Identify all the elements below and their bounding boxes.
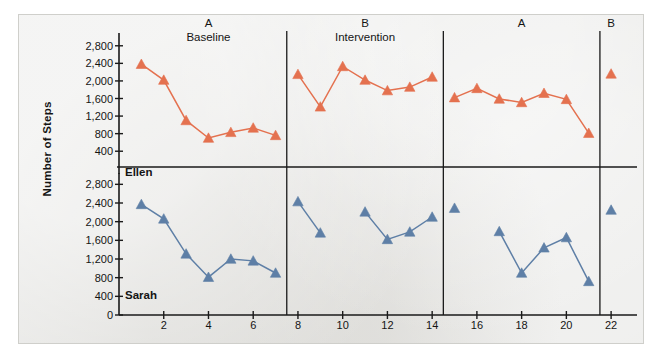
x-tick-label: 22: [605, 319, 617, 331]
figure-panel: Number of Steps 2,8002,4002,0001,6001,20…: [18, 14, 644, 344]
x-tick-label: 20: [560, 319, 572, 331]
x-tick-label: 16: [471, 319, 483, 331]
chart-plot-area: Number of Steps 2,8002,4002,0001,6001,20…: [19, 15, 643, 343]
chart-svg: [19, 15, 644, 344]
x-tick-label: 4: [205, 319, 211, 331]
x-tick-label: 10: [337, 319, 349, 331]
phase-label-1: ABaseline: [186, 17, 230, 44]
panel-label-sarah: Sarah: [125, 289, 157, 301]
phase-name: Intervention: [335, 31, 395, 45]
phase-letter: B: [607, 17, 615, 31]
phase-letter: A: [186, 17, 230, 31]
x-tick-label: 12: [381, 319, 393, 331]
x-tick-label: 6: [250, 319, 256, 331]
phase-label-3: A: [518, 17, 526, 31]
x-tick-label: 2: [161, 319, 167, 331]
x-tick-label: 8: [295, 319, 301, 331]
x-tick-label: 14: [426, 319, 438, 331]
phase-label-2: BIntervention: [335, 17, 395, 44]
phase-letter: B: [335, 17, 395, 31]
phase-letter: A: [518, 17, 526, 31]
panel-label-ellen: Ellen: [125, 166, 152, 178]
x-tick-label: 18: [516, 319, 528, 331]
phase-label-4: B: [607, 17, 615, 31]
phase-name: Baseline: [186, 31, 230, 45]
x-axis-ticks: Recess Sessions 246810121416182022: [19, 315, 644, 344]
